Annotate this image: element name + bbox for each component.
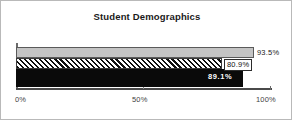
axis-tick-label-50: 50% <box>132 95 148 104</box>
chart-title: Student Demographics <box>1 11 292 22</box>
data-label-series-2: 80.9% <box>224 59 252 71</box>
data-label-series-1: 93.5% <box>257 49 279 57</box>
axis-tick-label-100: 100% <box>256 95 276 104</box>
chart-container: Student Demographics 93.5% 80.9% 89.1% 0… <box>0 0 292 120</box>
axis-tick-label-0: 0% <box>15 95 26 104</box>
bar-series-2[interactable] <box>16 58 222 69</box>
plot-area: 93.5% 80.9% 89.1% <box>16 43 271 90</box>
bar-series-1[interactable] <box>16 47 254 58</box>
data-label-series-3: 89.1% <box>206 72 234 82</box>
